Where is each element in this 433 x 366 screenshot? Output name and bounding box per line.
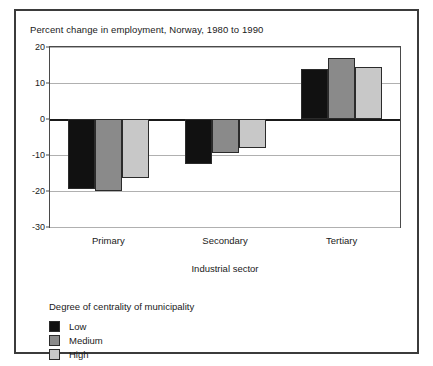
gridline: [50, 191, 400, 192]
y-tick-label: 20: [35, 42, 45, 52]
y-tick-mark: [46, 47, 50, 48]
y-tick-label: -20: [32, 186, 45, 196]
bar-secondary-medium: [212, 119, 239, 153]
bar-tertiary-medium: [328, 58, 355, 119]
bar-primary-high: [122, 119, 149, 178]
y-tick-label: 0: [40, 114, 45, 124]
y-tick-label: 10: [35, 78, 45, 88]
legend-label-low: Low: [69, 321, 86, 332]
chart-legend: Degree of centrality of municipality Low…: [49, 301, 194, 361]
legend-label-medium: Medium: [69, 335, 103, 346]
gridline: [50, 47, 400, 48]
chart-title: Percent change in employment, Norway, 19…: [30, 24, 264, 35]
x-tick-label-primary: Primary: [92, 235, 125, 246]
y-tick-mark: [46, 119, 50, 120]
legend-item-low: Low: [49, 319, 194, 333]
bar-primary-low: [68, 119, 95, 189]
y-tick-mark: [46, 191, 50, 192]
y-tick-label: -30: [32, 222, 45, 232]
bar-secondary-low: [185, 119, 212, 164]
legend-swatch-high: [49, 349, 60, 360]
y-tick-mark: [46, 155, 50, 156]
gridline: [50, 227, 400, 228]
legend-item-high: High: [49, 347, 194, 361]
legend-label-high: High: [69, 349, 89, 360]
bar-tertiary-low: [301, 69, 328, 119]
y-tick-mark: [46, 227, 50, 228]
chart-figure: Percent change in employment, Norway, 19…: [14, 9, 419, 354]
legend-swatch-low: [49, 321, 60, 332]
legend-title: Degree of centrality of municipality: [49, 301, 194, 312]
x-tick-label-secondary: Secondary: [202, 235, 247, 246]
legend-swatch-medium: [49, 335, 60, 346]
y-tick-label: -10: [32, 150, 45, 160]
bar-secondary-high: [239, 119, 266, 148]
legend-item-medium: Medium: [49, 333, 194, 347]
x-axis-title: Industrial sector: [49, 263, 401, 274]
x-tick-label-tertiary: Tertiary: [326, 235, 357, 246]
bar-primary-medium: [95, 119, 122, 191]
bar-tertiary-high: [355, 67, 382, 119]
plot-area: 20100-10-20-30PrimarySecondaryTertiary: [49, 46, 401, 228]
y-tick-mark: [46, 83, 50, 84]
legend-items: LowMediumHigh: [49, 319, 194, 361]
